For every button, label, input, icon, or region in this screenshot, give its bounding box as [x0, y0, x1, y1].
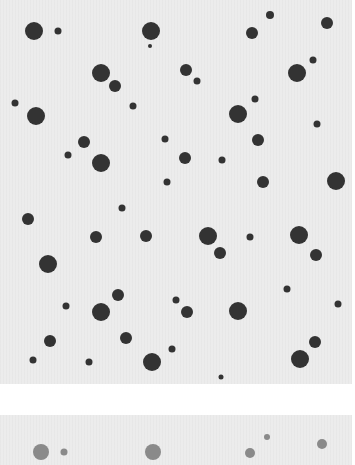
- dot: [143, 353, 161, 371]
- dot: [109, 80, 121, 92]
- dot: [27, 107, 45, 125]
- dot: [219, 157, 226, 164]
- dot: [314, 121, 321, 128]
- dot: [55, 28, 62, 35]
- dot: [25, 22, 43, 40]
- dot: [199, 227, 217, 245]
- dot: [39, 255, 57, 273]
- dot: [181, 306, 193, 318]
- dot: [63, 303, 70, 310]
- dot: [61, 449, 68, 456]
- dot: [65, 152, 72, 159]
- dot: [317, 439, 327, 449]
- dot: [92, 303, 110, 321]
- dot: [92, 64, 110, 82]
- dot: [130, 103, 137, 110]
- dot: [194, 78, 201, 85]
- dot: [112, 289, 124, 301]
- dot: [229, 302, 247, 320]
- dot: [164, 179, 171, 186]
- dot: [252, 96, 259, 103]
- dot: [321, 17, 333, 29]
- dot: [90, 231, 102, 243]
- dot: [291, 350, 309, 368]
- dot: [284, 286, 291, 293]
- dot: [22, 213, 34, 225]
- dot: [335, 301, 342, 308]
- dot: [173, 297, 180, 304]
- dot: [142, 22, 160, 40]
- dot: [310, 249, 322, 261]
- dot: [44, 335, 56, 347]
- dot: [246, 27, 258, 39]
- dot-pattern-panel: [0, 0, 352, 384]
- dot: [145, 444, 161, 460]
- dot: [290, 226, 308, 244]
- dot-field: [0, 0, 352, 384]
- dot: [78, 136, 90, 148]
- dot: [288, 64, 306, 82]
- dot: [86, 359, 93, 366]
- dot: [180, 64, 192, 76]
- dot: [309, 336, 321, 348]
- dot: [310, 57, 317, 64]
- dot: [264, 434, 270, 440]
- dot: [229, 105, 247, 123]
- dot: [266, 11, 274, 19]
- dot: [92, 154, 110, 172]
- dot: [12, 100, 19, 107]
- dot: [245, 448, 255, 458]
- dot: [247, 234, 254, 241]
- dot: [140, 230, 152, 242]
- faded-dot-field: [0, 415, 352, 465]
- dot: [252, 134, 264, 146]
- dot: [119, 205, 126, 212]
- dot: [179, 152, 191, 164]
- dot: [214, 247, 226, 259]
- faded-dot-pattern-panel: [0, 415, 352, 465]
- dot: [148, 44, 152, 48]
- dot: [169, 346, 176, 353]
- dot: [120, 332, 132, 344]
- dot: [33, 444, 49, 460]
- dot: [257, 176, 269, 188]
- dot: [219, 375, 224, 380]
- dot: [327, 172, 345, 190]
- dot: [30, 357, 37, 364]
- dot: [162, 136, 169, 143]
